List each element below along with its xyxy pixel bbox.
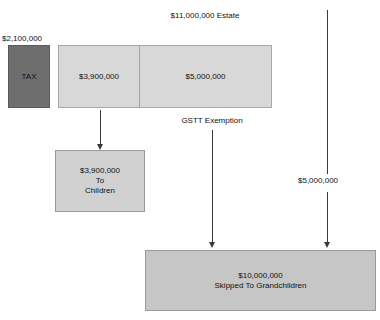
tax-box: TAX — [8, 45, 50, 108]
children-box-line1: To — [96, 176, 104, 186]
estate-segment-exemption-share: $5,000,000 — [140, 46, 271, 107]
estate-bar: $3,900,000 $5,000,000 — [58, 45, 272, 108]
estate-segment-exemption-amount: $5,000,000 — [185, 72, 225, 82]
estate-segment-children-amount: $3,900,000 — [79, 72, 119, 82]
arrow-shaft — [100, 110, 101, 144]
tax-box-label: TAX — [22, 72, 37, 82]
arrow-shaft — [327, 192, 328, 242]
children-box: $3,900,000 To Children — [55, 150, 145, 212]
arrow-head — [209, 242, 215, 248]
right-branch-amount-label: $5,000,000 — [298, 176, 338, 186]
grandchildren-box-caption: Skipped To Grandchildren — [215, 281, 307, 291]
children-box-line2: Children — [85, 186, 115, 196]
estate-segment-children-share: $3,900,000 — [59, 46, 140, 107]
gstt-exemption-label: GSTT Exemption — [181, 116, 242, 126]
children-box-amount: $3,900,000 — [80, 166, 120, 176]
grandchildren-box: $10,000,000 Skipped To Grandchildren — [145, 250, 376, 311]
arrow-shaft — [212, 130, 213, 242]
estate-distribution-diagram: GSTT Allocation Example $11,000,000 Esta… — [0, 0, 380, 320]
right-branch-line-upper — [327, 10, 328, 174]
estate-total-label: $11,000,000 Estate — [171, 11, 240, 21]
tax-amount-label: $2,100,000 — [2, 34, 42, 44]
arrow-head — [324, 242, 330, 248]
grandchildren-box-amount: $10,000,000 — [238, 271, 283, 281]
